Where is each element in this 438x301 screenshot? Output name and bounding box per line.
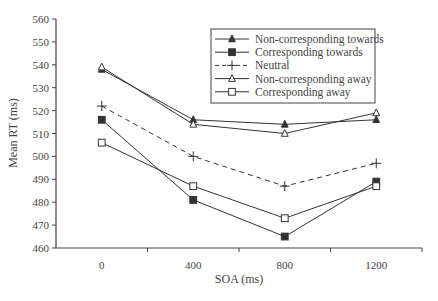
square-marker-icon xyxy=(190,197,197,204)
x-tick-label: 400 xyxy=(185,259,202,271)
y-tick-label: 560 xyxy=(33,13,50,25)
legend-label: Non-corresponding towards xyxy=(255,33,384,46)
y-tick-label: 550 xyxy=(33,36,50,48)
legend-label: Corresponding towards xyxy=(255,46,363,59)
legend-label: Non-corresponding away xyxy=(255,73,372,86)
y-tick-label: 510 xyxy=(33,128,50,140)
legend-label: Neutral xyxy=(255,59,289,71)
plus-marker-icon xyxy=(188,151,198,161)
y-tick-label: 520 xyxy=(33,105,50,117)
plus-marker-icon xyxy=(371,158,381,168)
series-corresponding-towards xyxy=(98,116,379,240)
square-marker-icon xyxy=(98,139,105,146)
x-tick-label: 1200 xyxy=(365,259,388,271)
y-tick-label: 490 xyxy=(33,173,50,185)
y-tick-label: 500 xyxy=(33,150,50,162)
y-tick-label: 480 xyxy=(33,196,50,208)
y-axis-label: Mean RT (ms) xyxy=(6,98,20,168)
square-marker-icon xyxy=(229,88,236,95)
x-axis-label: SOA (ms) xyxy=(215,272,263,286)
square-marker-icon xyxy=(281,233,288,240)
square-marker-icon xyxy=(98,116,105,123)
legend: Non-corresponding towardsCorresponding t… xyxy=(211,29,384,103)
series-neutral xyxy=(97,101,382,191)
y-tick-label: 470 xyxy=(33,219,50,231)
y-tick-label: 530 xyxy=(33,82,50,94)
plus-marker-icon xyxy=(97,101,107,111)
line-chart: 460470480490500510520530540550560 040080… xyxy=(0,0,438,301)
square-marker-icon xyxy=(373,183,380,190)
x-tick-label: 800 xyxy=(277,259,294,271)
y-tick-label: 460 xyxy=(33,242,50,254)
series-line xyxy=(102,120,377,237)
x-axis: 04008001200 xyxy=(56,248,422,271)
square-marker-icon xyxy=(190,183,197,190)
y-axis: 460470480490500510520530540550560 xyxy=(33,13,57,254)
triangle-marker-icon xyxy=(373,109,380,116)
square-marker-icon xyxy=(229,49,236,56)
square-marker-icon xyxy=(281,215,288,222)
series-corresponding-away xyxy=(98,139,379,221)
triangle-marker-icon xyxy=(373,116,380,123)
triangle-marker-icon xyxy=(98,63,105,70)
x-tick-label: 0 xyxy=(99,259,105,271)
series-line xyxy=(102,106,377,186)
legend-label: Corresponding away xyxy=(255,86,351,99)
plus-marker-icon xyxy=(280,181,290,191)
y-tick-label: 540 xyxy=(33,59,50,71)
